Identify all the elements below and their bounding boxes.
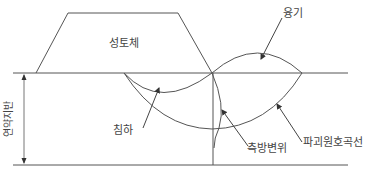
failure-arc-leader-arrow xyxy=(277,104,302,142)
dimension-arrowhead-bottom-icon xyxy=(22,158,27,164)
lateral-displacement-label: 측방변위 xyxy=(247,143,287,154)
heave-leader-arrow xyxy=(261,18,282,59)
heave-label: 융기 xyxy=(283,8,303,19)
failure-arc-label: 파괴원호곡선 xyxy=(303,137,363,148)
settlement-curve xyxy=(124,73,212,93)
settlement-leader-arrow xyxy=(143,88,159,128)
heave-curve xyxy=(212,53,302,73)
soft-ground-label: 연약지반 xyxy=(4,101,14,137)
dimension-arrowhead-top-icon xyxy=(22,74,27,80)
settlement-label: 침하 xyxy=(113,125,133,136)
embankment-label: 성토체 xyxy=(109,38,139,49)
